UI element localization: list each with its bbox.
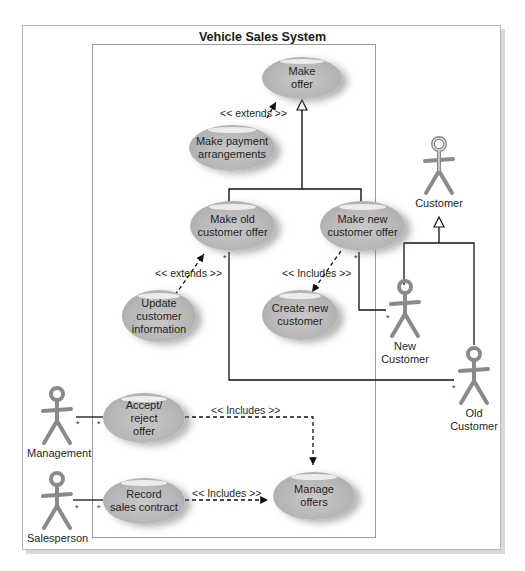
use-case-make-payment-arrangements: Make payment arrangements: [189, 125, 275, 171]
includes-label-create: << Includes >>: [282, 267, 351, 279]
multiplicity-record: *: [97, 503, 101, 513]
actor-customer: Customer: [409, 135, 469, 210]
use-case-update-customer-information: Update customer information: [122, 290, 196, 342]
includes-accept-line: [185, 417, 313, 465]
use-case-make-offer: Make offer: [262, 57, 342, 99]
use-case-make-old-customer-offer: Make old customer offer: [190, 201, 275, 251]
use-case-manage-offers: Manage offers: [273, 472, 355, 520]
multiplicity-new-offer: *: [354, 253, 358, 263]
includes-label-record: << Includes >>: [192, 487, 261, 499]
use-case-create-new-customer: Create new customer: [262, 290, 338, 340]
use-case-make-new-customer-offer: Make new customer offer: [320, 201, 405, 251]
extends-label-update: << extends >>: [155, 267, 222, 279]
actor-new-customer: New Customer: [375, 278, 435, 366]
use-case-record-sales-contract: Record sales contract: [103, 478, 185, 524]
generalization-arrowhead: [297, 100, 307, 110]
multiplicity-accept: *: [97, 419, 101, 429]
actor-salesperson: Salesperson: [27, 470, 87, 545]
stick-figure-icon: [454, 345, 494, 407]
stick-figure-icon: [419, 135, 459, 197]
customer-generalization-arrowhead: [434, 217, 444, 227]
extends-label-payment: << extends >>: [220, 107, 287, 119]
actor-old-customer: Old Customer: [444, 345, 504, 433]
includes-label-accept: << Includes >>: [211, 404, 280, 416]
use-case-accept-reject-offer: Accept/ reject offer: [103, 393, 185, 443]
multiplicity-old-offer: *: [223, 253, 227, 263]
stick-figure-icon: [37, 470, 77, 532]
actor-management: Management: [27, 385, 87, 460]
stick-figure-icon: [37, 385, 77, 447]
stick-figure-icon: [385, 278, 425, 340]
